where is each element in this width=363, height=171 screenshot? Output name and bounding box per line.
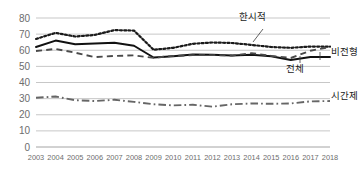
x-tick-2007: 2007 xyxy=(106,153,122,162)
series-line-0 xyxy=(36,30,330,50)
y-tick-30: 30 xyxy=(19,93,31,104)
line-chart: 01020304050607080 2003200420052006200720… xyxy=(0,0,363,171)
x-tick-2011: 2011 xyxy=(185,153,201,162)
series-label-jeonche: 전체 xyxy=(286,63,304,74)
y-axis-tick-labels: 01020304050607080 xyxy=(19,13,31,153)
x-axis-tick-labels: 2003200420052006200720082009201020112012… xyxy=(28,153,338,162)
y-tick-60: 60 xyxy=(19,45,31,56)
x-tick-2016: 2016 xyxy=(283,153,299,162)
series-label-hansijeok: 한시적 xyxy=(239,11,266,22)
x-tick-2010: 2010 xyxy=(165,153,181,162)
leader-hansijeok xyxy=(253,29,263,42)
x-tick-2015: 2015 xyxy=(263,153,279,162)
x-tick-2013: 2013 xyxy=(224,153,240,162)
y-tick-20: 20 xyxy=(19,109,31,120)
y-tick-80: 80 xyxy=(19,13,31,24)
x-tick-2017: 2017 xyxy=(302,153,318,162)
series-label-siganje: 시간제 xyxy=(331,90,358,101)
gridlines xyxy=(36,18,330,147)
x-tick-2003: 2003 xyxy=(28,153,44,162)
y-tick-40: 40 xyxy=(19,77,31,88)
x-tick-2012: 2012 xyxy=(204,153,220,162)
chart-canvas: 01020304050607080 2003200420052006200720… xyxy=(0,0,363,171)
x-tick-2005: 2005 xyxy=(67,153,83,162)
series-line-3 xyxy=(36,97,330,107)
x-tick-2008: 2008 xyxy=(126,153,142,162)
y-tick-0: 0 xyxy=(24,142,30,153)
series-label-bijeonhyeong: 비전형 xyxy=(331,46,358,57)
x-tick-2018: 2018 xyxy=(322,153,338,162)
y-tick-50: 50 xyxy=(19,61,31,72)
series-line-2 xyxy=(36,47,330,58)
y-tick-10: 10 xyxy=(19,125,31,136)
x-tick-2014: 2014 xyxy=(243,153,259,162)
x-tick-2004: 2004 xyxy=(47,153,63,162)
x-tick-2006: 2006 xyxy=(87,153,103,162)
x-tick-2009: 2009 xyxy=(145,153,161,162)
y-tick-70: 70 xyxy=(19,29,31,40)
